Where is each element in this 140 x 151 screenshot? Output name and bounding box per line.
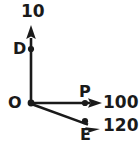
- horizontal-vector-value-label: 100: [103, 94, 139, 111]
- vertical-arrowhead-icon: [26, 25, 36, 39]
- point-d-label: D: [13, 41, 26, 57]
- diagonal-vector-value-label: 120: [103, 117, 139, 134]
- origin-label: O: [8, 95, 22, 111]
- point-e-label: E: [80, 127, 91, 143]
- vertical-vector-value-label: 10: [21, 3, 45, 20]
- point-d-dot: [28, 46, 34, 52]
- point-e-dot: [82, 118, 88, 124]
- vector-diagram: 10 D O P 100 E 120: [0, 0, 140, 151]
- origin-vertex-dot: [28, 100, 35, 107]
- point-p-label: P: [79, 84, 91, 100]
- diagonal-vector-line: [30, 104, 88, 125]
